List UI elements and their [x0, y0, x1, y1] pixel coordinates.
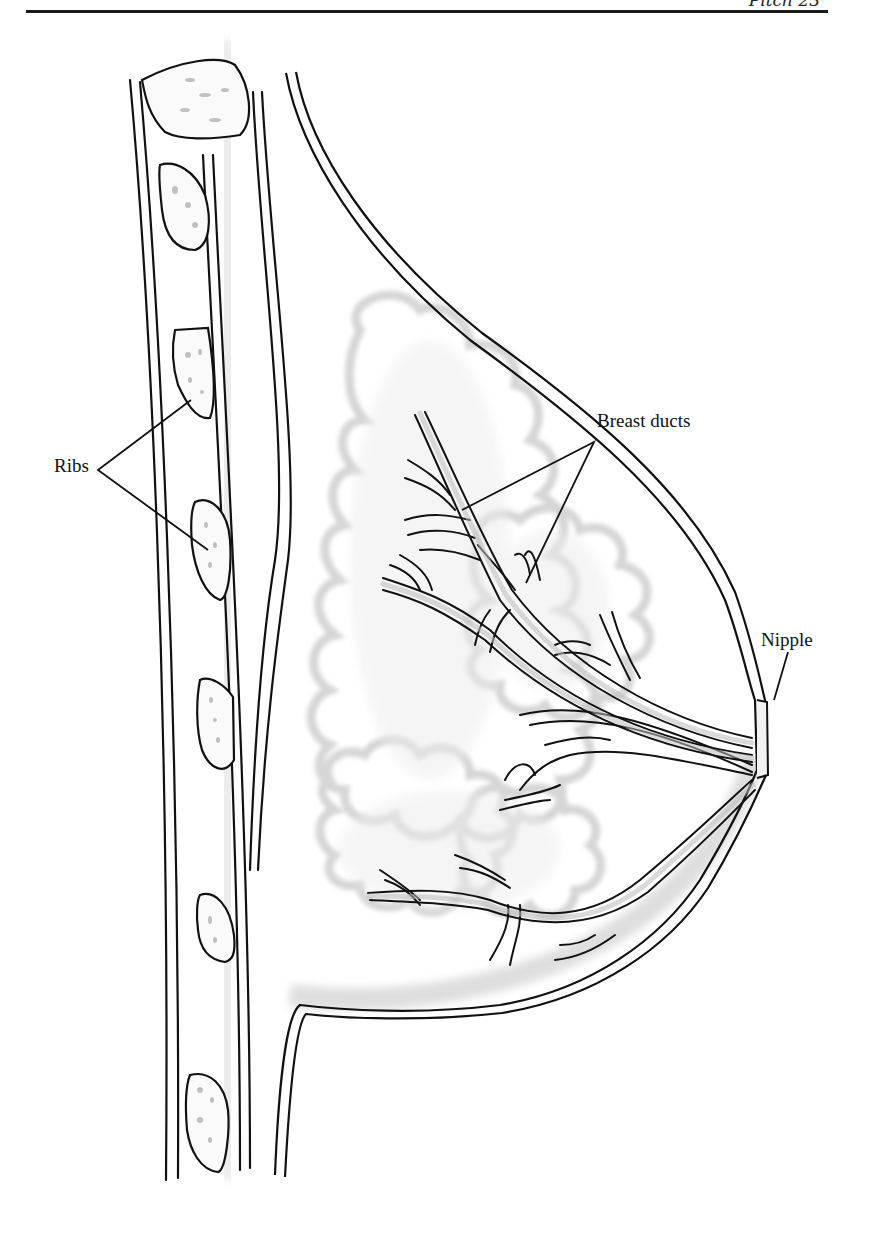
- nipple-leader: [774, 652, 788, 700]
- rib-5: [197, 679, 234, 769]
- rib-3: [173, 328, 214, 418]
- rib-column: [130, 80, 291, 1180]
- breast-anatomy-illustration: [0, 0, 875, 1235]
- rib-1: [142, 60, 249, 138]
- rib-7: [186, 1074, 229, 1172]
- ribs-label: Ribs: [54, 455, 89, 477]
- nipple: [757, 700, 768, 778]
- nipple-label: Nipple: [761, 629, 813, 651]
- rib-2: [159, 164, 209, 250]
- breast-ducts-label: Breast ducts: [597, 410, 690, 432]
- rib-4: [191, 500, 230, 600]
